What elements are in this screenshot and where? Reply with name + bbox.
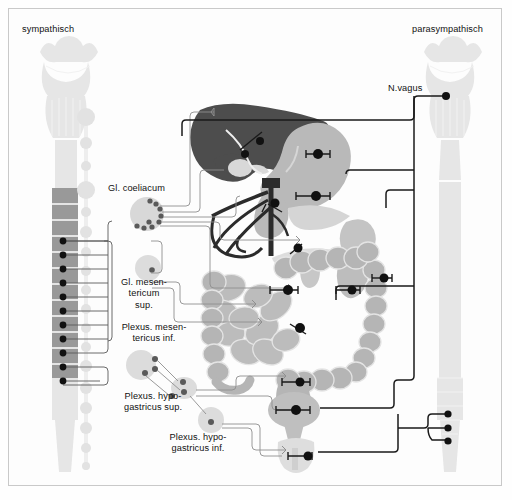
ganglion-coeliacum <box>130 197 164 231</box>
label-plexus-hypogastricus-sup: Plexus. hypo- gastricus sup. <box>103 391 203 414</box>
parasympathetic-cns-silhouette <box>424 36 482 472</box>
bladder-organ <box>268 392 320 440</box>
sacral-outflow-dots <box>444 410 451 444</box>
label-ganglion-coeliacum: Gl. coeliacum <box>108 183 165 194</box>
diagram-canvas <box>0 0 512 500</box>
autonomic-innervation-diagram: sympathisch parasympathisch N.vagus Gl. … <box>0 0 512 500</box>
label-plexus-hypogastricus-inf: Plexus. hypo- gastricus inf. <box>148 432 248 455</box>
label-parasympathetic: parasympathisch <box>412 24 483 35</box>
label-plexus-mesentericus-inf: Plexus. mesen- tericus inf. <box>110 322 198 345</box>
vagus-origin-dot <box>442 92 450 100</box>
label-vagus-nerve: N.vagus <box>388 83 422 94</box>
label-ganglion-mesentericum-sup: Gl. mesen- tericum sup. <box>108 277 180 311</box>
label-sympathetic: sympathisch <box>22 24 74 35</box>
sympathetic-trunk-chain <box>77 108 95 470</box>
